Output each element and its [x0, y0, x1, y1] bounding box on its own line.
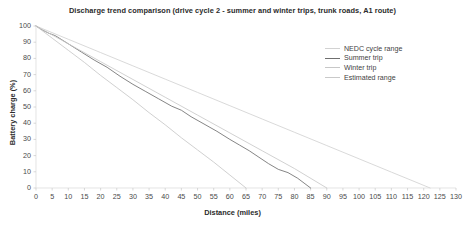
- x-axis-title: Distance (miles): [0, 208, 465, 217]
- y-tick-label: 30: [5, 134, 31, 143]
- y-tick-label: 70: [5, 70, 31, 79]
- y-tick-label: 0: [5, 183, 31, 192]
- y-tick-label: 40: [5, 118, 31, 127]
- legend-swatch-icon: [325, 58, 340, 59]
- legend-item[interactable]: Estimated range: [325, 73, 455, 83]
- y-tick-label: 20: [5, 151, 31, 160]
- y-tick-label: 80: [5, 53, 31, 62]
- legend-swatch-icon: [325, 48, 340, 49]
- series-line: [36, 26, 327, 188]
- x-tick-label: 130: [443, 192, 465, 201]
- legend-item[interactable]: Winter trip: [325, 63, 455, 73]
- legend-item-label: Summer trip: [344, 54, 383, 62]
- legend-swatch-icon: [325, 67, 340, 68]
- y-tick-label: 60: [5, 86, 31, 95]
- y-tick-label: 50: [5, 102, 31, 111]
- legend-swatch-icon: [325, 77, 340, 78]
- chart-legend: NEDC cycle rangeSummer tripWinter tripEs…: [325, 44, 455, 82]
- legend-item[interactable]: Summer trip: [325, 54, 455, 64]
- legend-item[interactable]: NEDC cycle range: [325, 44, 455, 54]
- series-line: [36, 26, 246, 188]
- legend-item-label: Winter trip: [344, 64, 376, 72]
- y-tick-label: 90: [5, 37, 31, 46]
- y-tick-label: 100: [5, 21, 31, 30]
- discharge-trend-chart: Discharge trend comparison (drive cycle …: [0, 0, 465, 227]
- series-line: [36, 26, 311, 188]
- legend-item-label: NEDC cycle range: [344, 45, 402, 53]
- legend-item-label: Estimated range: [344, 74, 396, 82]
- chart-title: Discharge trend comparison (drive cycle …: [0, 6, 465, 15]
- y-tick-label: 10: [5, 167, 31, 176]
- y-tick-marks: [34, 26, 37, 188]
